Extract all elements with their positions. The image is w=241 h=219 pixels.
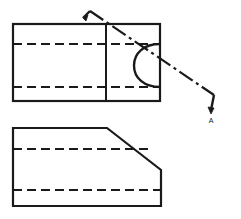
front-view xyxy=(13,128,161,206)
cutting-plane-end-arrowhead xyxy=(208,107,214,114)
section-label-a: A xyxy=(209,117,214,124)
drawing-svg: A xyxy=(0,0,241,219)
top-view-outline xyxy=(13,24,160,101)
technical-drawing-canvas: A xyxy=(0,0,241,219)
cutting-plane-line: A xyxy=(83,11,214,124)
front-view-outline xyxy=(13,128,161,206)
top-view xyxy=(13,24,160,101)
